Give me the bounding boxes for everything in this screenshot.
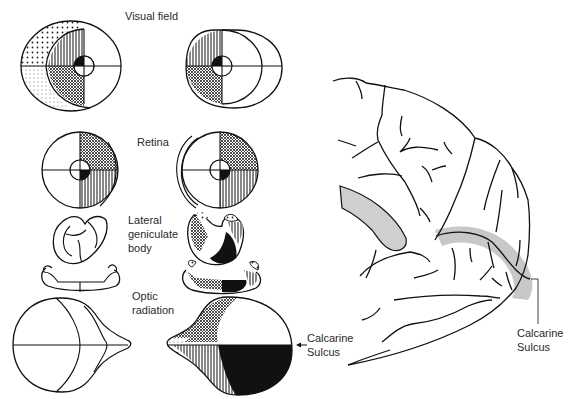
label-optic-line2: radiation [132,304,174,317]
brain-occipital-lobe [333,78,538,365]
label-lgb-line3: body [128,242,152,255]
label-visual-field: Visual field [125,10,178,23]
retina-right [177,132,260,208]
lateral-geniculate-body-left [42,217,120,292]
label-lgb-line1: Lateral [128,214,162,227]
calcarine-arrow-mid [296,343,307,348]
label-lgb-line2: geniculate [128,228,178,241]
diagram-canvas [0,0,573,399]
label-calcarine-right-line2: Sulcus [517,341,550,354]
visual-field-left [20,20,130,116]
lateral-geniculate-body-right [183,212,261,294]
label-calcarine-mid-line1: Calcarine [307,332,353,345]
visual-field-right [186,30,282,108]
label-retina: Retina [137,136,169,149]
label-calcarine-right-line1: Calcarine [517,327,563,340]
visual-pathway-diagram: Visual field Retina Lateral geniculate b… [0,0,573,399]
label-optic-line1: Optic [132,290,158,303]
retina-left [42,132,125,208]
label-calcarine-mid-line2: Sulcus [307,346,340,359]
optic-radiation-right [167,297,294,398]
optic-radiation-left [13,298,131,392]
